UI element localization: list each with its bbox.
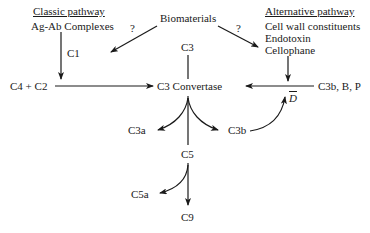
cellophane-label: Cellophane bbox=[265, 44, 315, 56]
complement-pathway-diagram: Classic pathway Ag-Ab Complexes C1 C4 + … bbox=[0, 0, 370, 233]
biomaterials-label: Biomaterials bbox=[160, 12, 216, 24]
c1-label: C1 bbox=[67, 47, 80, 59]
question-right: ? bbox=[236, 22, 241, 34]
ag-ab-complexes-label: Ag-Ab Complexes bbox=[31, 20, 114, 32]
c3b-b-p-label: C3b, B, P bbox=[318, 80, 361, 92]
c3b-label: C3b bbox=[228, 124, 246, 136]
d-bar-label: D bbox=[289, 92, 297, 104]
diagram-arrows bbox=[0, 0, 370, 233]
c3-convertase-label: C3 Convertase bbox=[157, 80, 222, 92]
question-left: ? bbox=[130, 22, 135, 34]
arrow-c5-to-c5a bbox=[160, 165, 188, 193]
arrow-convertase-to-c3a bbox=[158, 98, 188, 130]
c3a-label: C3a bbox=[128, 124, 146, 136]
c5-label: C5 bbox=[181, 148, 194, 160]
arrow-c3b-feedback-to-d bbox=[250, 97, 285, 131]
arrow-convertase-to-c3b bbox=[188, 98, 218, 130]
endotoxin-label: Endotoxin bbox=[265, 32, 311, 44]
cell-wall-constituents-label: Cell wall constituents bbox=[265, 20, 360, 32]
classic-pathway-heading: Classic pathway bbox=[33, 5, 105, 17]
c4-c2-label: C4 + C2 bbox=[10, 80, 47, 92]
c3-label: C3 bbox=[181, 41, 194, 53]
c9-label: C9 bbox=[181, 211, 194, 223]
c5a-label: C5a bbox=[131, 188, 149, 200]
alternative-pathway-heading: Alternative pathway bbox=[265, 5, 355, 17]
